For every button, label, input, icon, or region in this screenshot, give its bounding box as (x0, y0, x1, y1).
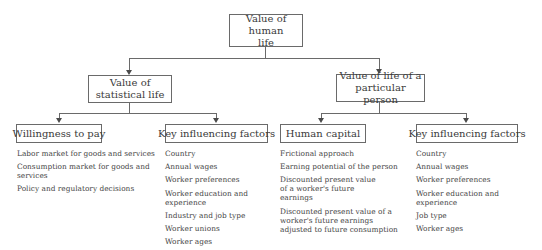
connector-vlpp-horizontal (321, 113, 467, 114)
vlpp-label-line-2: particular person (337, 82, 424, 106)
list-item: Consumption market for goods and service… (17, 162, 167, 180)
list-item: Discounted present value of a worker's f… (280, 175, 380, 202)
root-label-line-2: life (230, 37, 302, 49)
node-value-of-life-of-particular-person: Value of life of a particular person (336, 74, 425, 102)
list-item: Annual wages (416, 162, 542, 171)
arrow-to-kif-right (463, 118, 469, 123)
list-item: Country (416, 149, 542, 158)
node-willingness-to-pay: Willingness to pay (16, 124, 102, 143)
list-item: Country (165, 149, 290, 158)
list-item: Worker preferences (416, 175, 542, 184)
kif-left-item-list: Country Annual wages Worker preferences … (165, 149, 290, 250)
list-item: Worker education and experience (416, 189, 542, 207)
kif-right-label: Key influencing factors (408, 128, 525, 140)
human-capital-item-list: Frictional approach Earning potential of… (280, 149, 402, 238)
arrow-to-wtp (56, 118, 62, 123)
human-capital-label: Human capital (286, 128, 361, 140)
list-item: Labor market for goods and services (17, 149, 167, 158)
node-key-influencing-factors-vsl: Key influencing factors (165, 124, 268, 143)
connector-root-horizontal (129, 58, 380, 59)
list-item: Discounted present value of a worker's f… (280, 207, 402, 234)
wtp-item-list: Labor market for goods and services Cons… (17, 149, 167, 198)
list-item: Worker education and experience (165, 189, 290, 207)
list-item: Worker ages (165, 237, 290, 246)
arrow-to-kif-left (213, 118, 219, 123)
root-label-line-1: Value of human (230, 13, 302, 37)
list-item: Worker ages (416, 224, 542, 233)
list-item: Annual wages (165, 162, 290, 171)
kif-left-label: Key influencing factors (158, 128, 275, 140)
list-item: Frictional approach (280, 149, 402, 158)
node-key-influencing-factors-vlpp: Key influencing factors (416, 124, 518, 143)
connector-vsl-horizontal (59, 113, 217, 114)
list-item: Job type (416, 211, 542, 220)
connector-root-down (265, 47, 266, 58)
wtp-label: Willingness to pay (13, 128, 106, 140)
node-human-capital: Human capital (280, 124, 366, 143)
list-item: Worker unions (165, 224, 290, 233)
node-value-of-statistical-life: Value of statistical life (88, 75, 172, 103)
list-item: Industry and job type (165, 211, 290, 220)
vsl-label-line-2: statistical life (96, 89, 165, 101)
vsl-label-line-1: Value of (96, 77, 165, 89)
connector-vsl-down (129, 103, 130, 113)
list-item: Earning potential of the person (280, 162, 402, 171)
list-item: Policy and regulatory decisions (17, 184, 167, 193)
arrow-to-human-capital (318, 118, 324, 123)
kif-right-item-list: Country Annual wages Worker preferences … (416, 149, 542, 237)
connector-vlpp-down (379, 102, 380, 113)
list-item: Worker preferences (165, 175, 290, 184)
root-node-value-of-human-life: Value of human life (229, 14, 303, 47)
vlpp-label-line-1: Value of life of a (337, 70, 424, 82)
